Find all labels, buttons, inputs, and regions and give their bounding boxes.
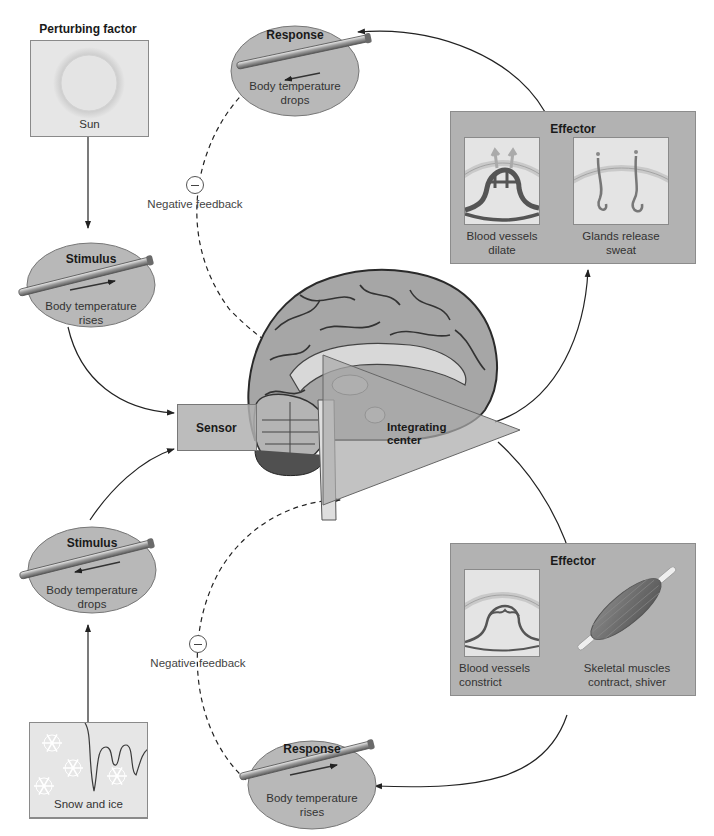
arrow-stimulus-to-sensor-bottom (90, 449, 174, 520)
negative-feedback-bottom: Negative feedback (142, 635, 254, 669)
effector-panel-sweat (573, 137, 669, 225)
perturbing-factor-top-title: Perturbing factor (28, 22, 148, 36)
stimulus-bottom-caption: Body temperature drops (37, 583, 147, 611)
arrow-effector-to-response-top (358, 31, 545, 112)
negative-feedback-top: Negative feedback (140, 176, 250, 210)
response-top-caption: Body temperature drops (240, 79, 350, 107)
sensor-box: Sensor (177, 404, 257, 451)
arrow-center-to-effector-top (495, 270, 588, 422)
stimulus-top-title: Stimulus (41, 252, 141, 266)
integrating-center-label: Integrating center (387, 421, 446, 447)
skeletal-muscle-icon (561, 554, 691, 654)
response-bottom-title: Response (262, 742, 362, 756)
arrow-stimulus-to-sensor-top (68, 327, 174, 413)
response-top-title: Response (245, 28, 345, 42)
effector-top-title: Effector (451, 122, 695, 136)
sun-caption: Sun (31, 117, 148, 131)
caption-glands-release-sweat: Glands release sweat (573, 229, 669, 257)
sweat-glands-icon (574, 138, 668, 224)
effector-panel-dilate (464, 137, 540, 225)
snow-box-frame: Snow and ice (29, 722, 148, 818)
caption-blood-vessels-dilate: Blood vessels dilate (456, 229, 548, 257)
stimulus-top-caption: Body temperature rises (36, 299, 146, 327)
snow-caption: Snow and ice (30, 797, 147, 811)
perturbing-factor-sun-box: Sun (30, 40, 149, 137)
minus-circle-icon (189, 635, 207, 653)
minus-circle-icon (186, 176, 204, 194)
effector-panel-constrict (464, 569, 540, 657)
stimulus-bottom-title: Stimulus (42, 536, 142, 550)
response-bottom-caption: Body temperature rises (257, 791, 367, 819)
dilated-blood-vessels-icon (465, 138, 539, 224)
constricted-blood-vessels-icon (465, 570, 539, 656)
caption-blood-vessels-constrict: Blood vessels constrict (456, 661, 551, 689)
effector-top-box: Effector Blood vessels dilate Glands rel… (450, 111, 696, 264)
effector-bottom-box: Effector Blood vessels constrict Skeleta… (450, 543, 696, 696)
arrow-effector-to-response-bottom (375, 715, 567, 787)
caption-skeletal-muscles: Skeletal muscles contract, shiver (569, 661, 685, 689)
